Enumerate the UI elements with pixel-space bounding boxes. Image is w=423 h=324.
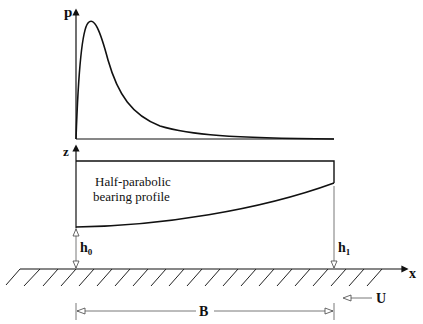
pressure-plot: p bbox=[64, 4, 334, 139]
x-axis-label: x bbox=[409, 266, 416, 281]
bearing-diagram: p z Half-parabolic bearing profile h0 h1… bbox=[0, 0, 423, 324]
h0-label: h0 bbox=[80, 240, 93, 257]
velocity-arrow: U bbox=[343, 291, 386, 306]
width-label: B bbox=[199, 304, 208, 319]
velocity-label: U bbox=[376, 291, 386, 306]
bearing-profile: z Half-parabolic bearing profile bbox=[63, 144, 334, 228]
h1-label: h1 bbox=[338, 240, 351, 257]
width-dimension: B bbox=[76, 303, 334, 320]
outlet-gap-dimension: h1 bbox=[331, 186, 351, 268]
profile-label-line1: Half-parabolic bbox=[95, 174, 171, 189]
inlet-gap-dimension: h0 bbox=[73, 228, 93, 268]
ground-hatching bbox=[6, 269, 382, 286]
profile-label-line2: bearing profile bbox=[93, 189, 170, 204]
z-axis-label: z bbox=[63, 144, 69, 159]
moving-surface: x bbox=[6, 266, 416, 286]
p-axis-label: p bbox=[64, 4, 72, 20]
pressure-curve bbox=[76, 21, 334, 139]
